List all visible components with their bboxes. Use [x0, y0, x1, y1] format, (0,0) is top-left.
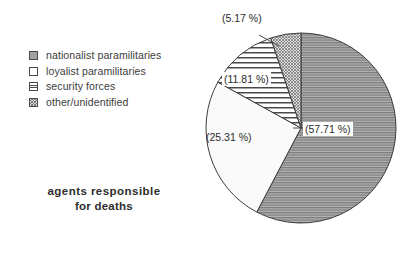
legend-swatch-security-icon [29, 82, 38, 91]
slice-label-security: (11.81 %) [222, 72, 271, 86]
legend-item-security: security forces [29, 79, 189, 95]
slice-label-loyalist: (25.31 %) [206, 131, 252, 143]
legend-swatch-loyalist-icon [29, 67, 38, 76]
caption-line-2: for deaths [24, 199, 184, 214]
caption-line-1: agents responsible [24, 184, 184, 199]
chart-caption: agents responsible for deaths [24, 184, 184, 214]
slice-label-other: (5.17 %) [222, 12, 262, 24]
slice-label-nationalist: (57.71 %) [303, 122, 353, 136]
legend-item-nationalist: nationalist paramilitaries [29, 48, 189, 64]
legend-swatch-other-icon [29, 98, 38, 107]
legend-label-other: other/unidentified [46, 97, 128, 108]
legend-label-nationalist: nationalist paramilitaries [46, 50, 161, 61]
legend-item-other: other/unidentified [29, 95, 189, 111]
legend: nationalist paramilitaries loyalist para… [29, 48, 189, 110]
legend-swatch-nationalist-icon [29, 51, 38, 60]
legend-label-security: security forces [46, 81, 115, 92]
legend-label-loyalist: loyalist paramilitaries [46, 66, 146, 77]
legend-item-loyalist: loyalist paramilitaries [29, 64, 189, 80]
